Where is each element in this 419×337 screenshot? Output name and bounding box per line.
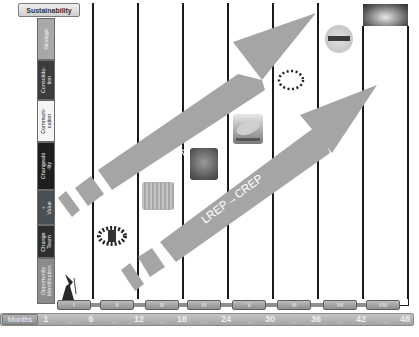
month-tick: 42 — [356, 314, 366, 325]
month-gap: ... — [247, 316, 252, 326]
month-tick: 6 — [88, 314, 93, 325]
month-gap: ... — [291, 316, 296, 326]
month-tick: 30 — [265, 314, 275, 325]
phase-ii: II — [100, 300, 134, 310]
people-ring-image — [276, 67, 306, 93]
airship-image — [233, 114, 263, 144]
month-tick: 1 — [43, 314, 48, 325]
month-gap: ... — [382, 316, 387, 326]
phase-end-connector — [400, 299, 409, 306]
phase-vii: VII — [323, 300, 357, 310]
team-circle-image — [96, 222, 128, 248]
phase-vi: VI — [277, 300, 311, 310]
crowd-face-image — [190, 148, 218, 180]
phase-iv: IV — [187, 300, 221, 310]
month-tick: 12 — [134, 314, 144, 325]
phase-v: V — [232, 300, 266, 310]
month-tick: 24 — [221, 314, 231, 325]
wizard-figure-image — [56, 272, 80, 302]
month-gap: ... — [111, 316, 116, 326]
cube-grid-image — [142, 182, 174, 210]
month-gap: ... — [337, 316, 342, 326]
phase-i: I — [57, 300, 91, 310]
month-gap: ... — [202, 316, 207, 326]
months-label: Months — [2, 314, 38, 325]
month-tick: 48 — [400, 314, 410, 325]
globe-badge-image — [325, 25, 353, 53]
month-gap: ... — [67, 316, 72, 326]
month-tick: 18 — [177, 314, 187, 325]
phase-iii: III — [145, 300, 179, 310]
month-gap: ... — [158, 316, 163, 326]
month-tick: 36 — [311, 314, 321, 325]
horizon-2020-banner-image — [363, 4, 408, 26]
phase-viii: VIII — [366, 300, 400, 310]
